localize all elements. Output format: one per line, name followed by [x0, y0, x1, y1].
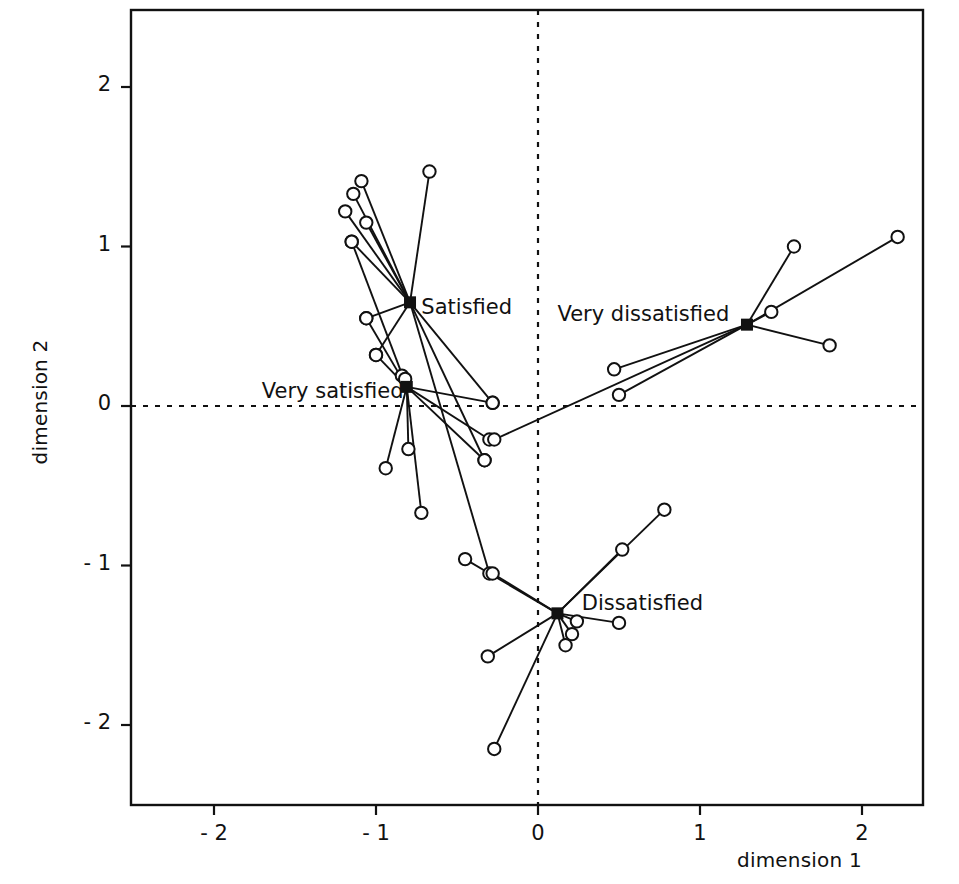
data-point-marker	[488, 743, 500, 755]
centroid-marker	[741, 319, 753, 331]
spoke-line	[614, 325, 747, 370]
data-point-marker	[571, 615, 583, 627]
data-point-marker	[370, 349, 382, 361]
centroid-marker	[404, 296, 416, 308]
plot-frame	[131, 10, 923, 805]
data-point-marker	[423, 165, 435, 177]
y-tick-label: - 2	[31, 710, 111, 734]
data-point-marker	[346, 236, 358, 248]
group-label: Satisfied	[421, 295, 512, 319]
data-point-marker	[823, 339, 835, 351]
spoke-line	[410, 302, 485, 460]
spoke-line	[493, 573, 558, 613]
x-tick-label: - 1	[336, 821, 416, 845]
data-point-marker	[482, 650, 494, 662]
spoke-line	[494, 325, 747, 440]
data-point-marker	[486, 567, 498, 579]
reference-lines	[131, 10, 923, 805]
spoke-line	[619, 325, 747, 395]
data-point-marker	[765, 306, 777, 318]
x-axis-title: dimension 1	[737, 848, 862, 872]
spoke-line	[345, 211, 410, 302]
scatter-plot-svg: Very satisfiedSatisfiedVery dissatisfied…	[0, 0, 959, 884]
spoke-line	[410, 302, 489, 573]
data-points	[339, 165, 904, 755]
spoke-line	[376, 302, 410, 355]
data-point-marker	[347, 188, 359, 200]
chart-canvas: Very satisfiedSatisfiedVery dissatisfied…	[0, 0, 959, 884]
group-label: Very dissatisfied	[557, 302, 729, 326]
data-point-marker	[478, 454, 490, 466]
data-point-marker	[658, 503, 670, 515]
data-point-marker	[415, 507, 427, 519]
x-tick-label: - 2	[174, 821, 254, 845]
axis-ticks	[121, 87, 862, 815]
data-point-marker	[788, 240, 800, 252]
data-point-marker	[486, 397, 498, 409]
spoke-lines	[345, 172, 897, 749]
data-point-marker	[608, 363, 620, 375]
group-label: Dissatisfied	[582, 591, 703, 615]
y-tick-label: 1	[31, 232, 111, 256]
data-point-marker	[616, 543, 628, 555]
centroid-markers	[401, 296, 753, 619]
spoke-line	[747, 325, 830, 346]
x-tick-label: 2	[822, 821, 902, 845]
group-label: Very satisfied	[262, 379, 404, 403]
data-point-marker	[891, 231, 903, 243]
y-tick-label: 2	[31, 72, 111, 96]
y-tick-label: 0	[31, 391, 111, 415]
data-point-marker	[402, 443, 414, 455]
x-tick-label: 0	[498, 821, 578, 845]
data-point-marker	[360, 312, 372, 324]
centroid-marker	[551, 607, 563, 619]
data-point-marker	[613, 389, 625, 401]
data-point-marker	[360, 216, 372, 228]
y-tick-label: - 1	[31, 551, 111, 575]
data-point-marker	[613, 617, 625, 629]
data-point-marker	[380, 462, 392, 474]
plot-border	[131, 10, 923, 805]
x-tick-label: 1	[660, 821, 740, 845]
spoke-line	[410, 172, 429, 303]
data-point-marker	[355, 175, 367, 187]
data-point-marker	[459, 553, 471, 565]
data-point-marker	[488, 433, 500, 445]
data-point-marker	[559, 639, 571, 651]
data-point-marker	[339, 205, 351, 217]
